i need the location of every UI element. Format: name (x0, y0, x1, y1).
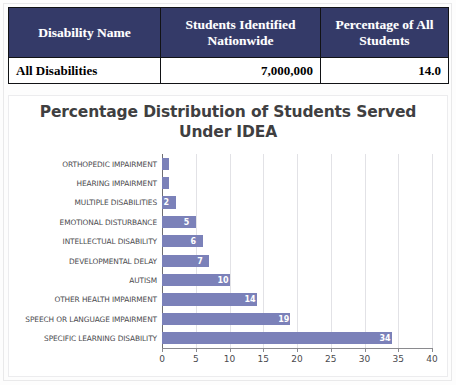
plot-area: ORTHOPEDIC IMPAIRMENTHEARING IMPAIRMENTM… (162, 154, 432, 348)
category-label: HEARING IMPAIRMENT (77, 179, 157, 188)
category-label: OTHER HEALTH IMPAIRMENT (54, 295, 157, 304)
chart-title-line-2: Under IDEA (9, 122, 447, 142)
bar[interactable] (162, 293, 257, 305)
cell-students-identified: 7,000,000 (161, 58, 321, 84)
disability-summary-table: Disability Name Students Identified Nati… (8, 7, 449, 84)
x-tick-mark (398, 348, 399, 352)
x-tick-label: 15 (258, 354, 269, 364)
bar-value-label: 10 (218, 276, 229, 285)
category-label: SPEECH OR LANGUAGE IMPAIRMENT (25, 314, 157, 323)
gridline-40 (432, 154, 433, 348)
bar-value-label: 7 (197, 256, 203, 265)
x-tick-mark (196, 348, 197, 352)
bar-row: HEARING IMPAIRMENT (162, 177, 432, 189)
category-label: DEVELOPMENTAL DELAY (69, 256, 157, 265)
bar-row: DEVELOPMENTAL DELAY7 (162, 255, 432, 267)
category-label: EMOTIONAL DISTURBANCE (60, 217, 157, 226)
bar-row: INTELLECTUAL DISABILITY6 (162, 235, 432, 247)
x-tick-label: 30 (359, 354, 370, 364)
document-page: Disability Name Students Identified Nati… (0, 0, 456, 385)
bar-value-label: 19 (278, 314, 289, 323)
column-header-disability-name: Disability Name (9, 8, 161, 58)
bar-value-label: 2 (164, 198, 170, 207)
category-label: ORTHOPEDIC IMPAIRMENT (62, 159, 157, 168)
bar[interactable] (162, 216, 196, 228)
bar-row: SPEECH OR LANGUAGE IMPAIRMENT19 (162, 313, 432, 325)
bar-row: ORTHOPEDIC IMPAIRMENT (162, 158, 432, 170)
bar[interactable] (162, 158, 169, 170)
bar-value-label: 34 (380, 334, 391, 343)
category-label: MULTIPLE DISABILITIES (75, 198, 157, 207)
bar-chart-panel: Percentage Distribution of Students Serv… (8, 95, 448, 377)
bar[interactable] (162, 332, 392, 344)
category-label: SPECIFIC LEARNING DISABILITY (44, 334, 157, 343)
x-tick-label: 25 (325, 354, 336, 364)
x-tick-label: 35 (393, 354, 404, 364)
x-tick-mark (230, 348, 231, 352)
x-tick-mark (297, 348, 298, 352)
bar-value-label: 5 (184, 217, 190, 226)
chart-title-line-1: Percentage Distribution of Students Serv… (9, 102, 447, 122)
chart-title: Percentage Distribution of Students Serv… (9, 102, 447, 143)
x-tick-mark (432, 348, 433, 352)
x-tick-mark (331, 348, 332, 352)
cell-percentage-of-all: 14.0 (321, 58, 449, 84)
x-tick-label: 0 (159, 354, 165, 364)
bar[interactable] (162, 177, 169, 189)
x-tick-label: 40 (426, 354, 437, 364)
bar-value-label: 6 (191, 237, 197, 246)
bar-row: MULTIPLE DISABILITIES2 (162, 196, 432, 208)
table-header-row: Disability Name Students Identified Nati… (9, 8, 449, 58)
x-tick-mark (365, 348, 366, 352)
column-header-percentage-of-all: Percentage of All Students (321, 8, 449, 58)
table-header: Disability Name Students Identified Nati… (9, 8, 449, 58)
x-tick-mark (162, 348, 163, 352)
bar-row: AUTISM10 (162, 274, 432, 286)
category-label: AUTISM (129, 276, 157, 285)
bar-row: OTHER HEALTH IMPAIRMENT14 (162, 293, 432, 305)
x-tick-label: 5 (193, 354, 199, 364)
bar-row: EMOTIONAL DISTURBANCE5 (162, 216, 432, 228)
table-body: All Disabilities 7,000,000 14.0 (9, 58, 449, 84)
bar-row: SPECIFIC LEARNING DISABILITY34 (162, 332, 432, 344)
bar[interactable] (162, 313, 290, 325)
column-header-students-identified: Students Identified Nationwide (161, 8, 321, 58)
cell-disability-name: All Disabilities (9, 58, 161, 84)
x-tick-label: 10 (224, 354, 235, 364)
bar-value-label: 14 (245, 295, 256, 304)
x-tick-label: 20 (291, 354, 302, 364)
table-row: All Disabilities 7,000,000 14.0 (9, 58, 449, 84)
x-tick-mark (263, 348, 264, 352)
category-label: INTELLECTUAL DISABILITY (63, 237, 157, 246)
